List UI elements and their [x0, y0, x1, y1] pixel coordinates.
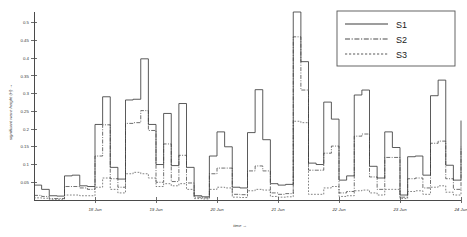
y-tick-label: 0.5	[23, 20, 30, 25]
y-axis-title: significant wave height (H) →	[8, 84, 13, 140]
y-tick-label: 0.3	[23, 91, 30, 96]
legend-label-s2: S2	[396, 35, 407, 45]
x-tick-label: 22 Jun	[331, 207, 346, 212]
y-tick-label: 0.25	[20, 109, 29, 114]
legend-label-s1: S1	[396, 20, 407, 30]
x-tick-label: 24 Jun	[453, 207, 467, 212]
legend-label-s3: S3	[396, 50, 407, 60]
y-axis-ticks: 0.050.10.150.20.250.30.350.40.450.5	[20, 20, 37, 185]
x-tick-label: 20 Jun	[209, 207, 224, 212]
y-tick-label: 0.35	[20, 74, 29, 79]
x-tick-label: 18 Jun	[88, 207, 102, 212]
x-axis-ticks: 18 Jun19 Jun20 Jun21 Jun22 Jun23 Jun24 J…	[88, 197, 467, 212]
wave-height-chart: 0.050.10.150.20.250.30.350.40.450.5 18 J…	[0, 0, 467, 237]
y-tick-label: 0.1	[23, 162, 30, 167]
y-tick-label: 0.15	[20, 144, 29, 149]
chart-legend[interactable]: S1 S2 S3	[337, 11, 455, 66]
x-tick-label: 23 Jun	[392, 207, 407, 212]
y-tick-label: 0.4	[23, 56, 30, 61]
y-tick-label: 0.45	[20, 38, 29, 43]
y-tick-label: 0.2	[23, 127, 30, 132]
chart-figure: 0.050.10.150.20.250.30.350.40.450.5 18 J…	[0, 0, 467, 237]
x-tick-label: 21 Jun	[270, 207, 285, 212]
x-axis-title: time →	[233, 223, 247, 228]
x-tick-label: 19 Jun	[149, 207, 163, 212]
y-tick-label: 0.05	[20, 180, 29, 185]
